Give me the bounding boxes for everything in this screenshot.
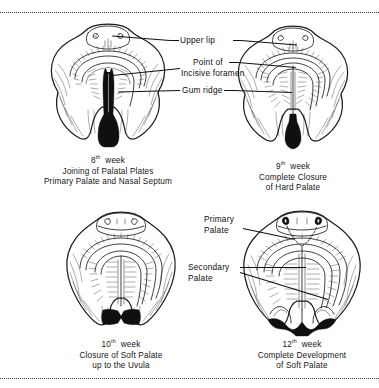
caption-week-10-line1: 10th week (52, 340, 190, 351)
week-word-9: week (290, 162, 310, 171)
caption-week-8-line2: Joining of Palatal Plates (32, 167, 184, 178)
top-dotted-rule (0, 12, 379, 13)
leader-secondary-palate-stub (240, 267, 250, 268)
label-primary-palate: Primary Palate (204, 214, 234, 235)
leader-secondary-palate-horizontal (250, 267, 306, 268)
label-point-of-incisive-foramen: Point of Incisive foramen (181, 57, 245, 78)
caption-week-9: 9th week Complete Closure of Hard Palate (228, 162, 358, 194)
caption-week-8-line3: Primary Palate and Nasal Septum (32, 177, 184, 188)
label-primary-palate-line1: Primary (204, 214, 234, 225)
week-ordinal-12: th (292, 338, 297, 344)
label-gum-ridge: Gum ridge (182, 85, 223, 95)
week-ordinal-9: th (281, 160, 286, 166)
week-ordinal-10: th (111, 338, 116, 344)
label-upper-lip: Upper lip (180, 35, 215, 45)
label-secondary-palate: Secondary Palate (188, 262, 229, 283)
week-ordinal-8: th (96, 154, 101, 160)
week-word-8: week (105, 156, 125, 165)
panel-week-12-illustration (240, 206, 364, 338)
label-primary-palate-line2: Palate (204, 225, 234, 236)
panel-week-8-illustration (44, 20, 172, 152)
caption-week-10-line3: up to the Uvula (52, 361, 190, 372)
caption-week-8: 8th week Joining of Palatal Plates Prima… (32, 156, 184, 188)
caption-week-12-line1: 12th week (230, 340, 374, 351)
caption-week-9-line2: Complete Closure (228, 173, 358, 184)
caption-week-9-line1: 9th week (228, 162, 358, 173)
bottom-dotted-rule (0, 378, 379, 379)
week-word-10: week (121, 340, 141, 349)
caption-week-12: 12th week Complete Development of Soft P… (230, 340, 374, 372)
caption-week-10: 10th week Closure of Soft Palate up to t… (52, 340, 190, 372)
panel-week-10-illustration (62, 206, 180, 336)
caption-week-8-line1: 8th week (32, 156, 184, 167)
caption-week-12-line3: of Soft Palate (230, 361, 374, 372)
caption-week-9-line3: of Hard Palate (228, 183, 358, 194)
caption-week-12-line2: Complete Development (230, 351, 374, 362)
leader-gum-ridge-right (224, 90, 234, 91)
week-number-12: 12 (283, 340, 292, 349)
leader-incisive-right (229, 62, 238, 63)
label-incisive-foramen: Incisive foramen (181, 68, 245, 79)
label-secondary-palate-line2: Palate (188, 273, 229, 284)
week-word-12: week (302, 340, 322, 349)
figure-root: 8th week Joining of Palatal Plates Prima… (0, 0, 379, 388)
leader-upper-lip-left (170, 40, 179, 41)
leader-upper-lip-right (233, 40, 241, 41)
label-secondary-palate-line1: Secondary (188, 262, 229, 273)
caption-week-10-line2: Closure of Soft Palate (52, 351, 190, 362)
week-number-10: 10 (102, 340, 111, 349)
